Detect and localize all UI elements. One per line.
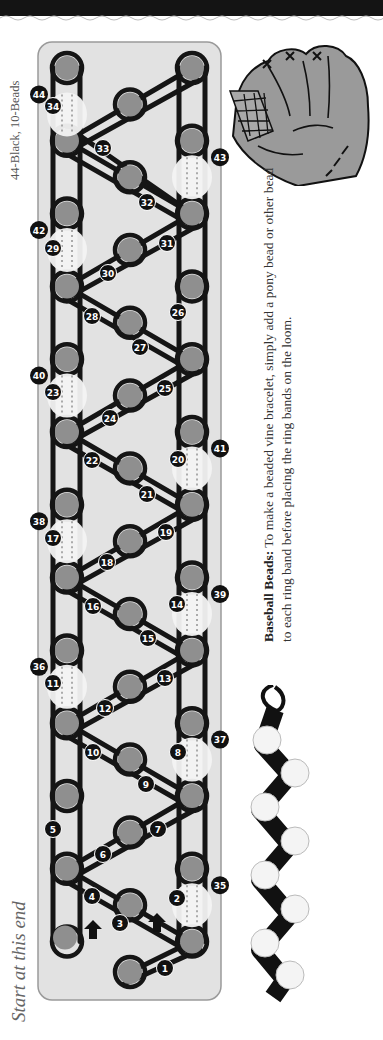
peg <box>180 129 204 153</box>
peg <box>180 857 204 881</box>
peg <box>180 274 204 298</box>
bracelet-baseball-bead <box>281 759 309 787</box>
bracelet-baseball-bead <box>276 961 304 989</box>
peg <box>55 202 79 226</box>
peg <box>118 820 142 844</box>
bracelet-baseball-bead <box>251 929 279 957</box>
band-number-label: 11 <box>47 679 60 689</box>
peg <box>55 274 79 298</box>
peg <box>55 857 79 881</box>
bead-number-label: 37 <box>214 735 227 745</box>
peg <box>55 493 79 517</box>
peg <box>118 602 142 626</box>
band-number-label: 28 <box>86 312 99 322</box>
bead-number-label: 38 <box>33 517 46 527</box>
band-number-label: 27 <box>134 343 147 353</box>
band-number-label: 23 <box>47 388 60 398</box>
band-number-label: 25 <box>159 384 172 394</box>
band-number-label: 26 <box>172 308 185 318</box>
tip-line-2: to each ring band before placing the rin… <box>278 168 296 642</box>
peg <box>180 347 204 371</box>
tip-title: Baseball Beads: <box>261 551 276 642</box>
bead-number-label: 44 <box>33 90 46 100</box>
peg <box>53 926 77 950</box>
tip-line-1-text: To make a beaded vine bracelet, simply a… <box>261 168 276 551</box>
peg <box>180 711 204 735</box>
bracelet-baseball-bead <box>281 895 309 923</box>
peg <box>55 347 79 371</box>
band-number-label: 4 <box>89 892 95 902</box>
peg <box>118 893 142 917</box>
peg <box>118 238 142 262</box>
peg <box>55 711 79 735</box>
band-number-label: 5 <box>50 825 56 835</box>
band-number-label: 29 <box>47 244 60 254</box>
peg <box>55 638 79 662</box>
band-number-label: 33 <box>97 144 110 154</box>
band-number-label: 2 <box>174 894 180 904</box>
band-number-label: 21 <box>141 490 154 500</box>
peg <box>55 420 79 444</box>
peg <box>118 748 142 772</box>
peg <box>118 92 142 116</box>
baseball-glove-icon <box>228 36 378 186</box>
bead-number-label: 36 <box>33 662 46 672</box>
band-number-label: 6 <box>100 850 106 860</box>
bracelet-baseball-bead <box>281 827 309 855</box>
bead-number-label: 41 <box>214 444 227 454</box>
bead-body <box>172 155 212 199</box>
peg <box>180 202 204 226</box>
peg <box>180 566 204 590</box>
band-number-label: 12 <box>99 704 112 714</box>
bracelet-photo <box>245 685 325 1015</box>
bead-number-label: 43 <box>214 153 227 163</box>
band-number-label: 19 <box>160 528 173 538</box>
band-number-label: 9 <box>143 780 149 790</box>
band-number-label: 31 <box>161 239 174 249</box>
peg <box>180 930 204 954</box>
baseball-beads-tip: Baseball Beads: To make a beaded vine br… <box>260 168 296 642</box>
band-number-label: 30 <box>102 269 115 279</box>
band-number-label: 24 <box>104 414 117 424</box>
peg <box>118 165 142 189</box>
peg <box>180 56 204 80</box>
peg <box>180 493 204 517</box>
peg <box>55 566 79 590</box>
peg <box>118 529 142 553</box>
bead-number-label: 39 <box>214 590 227 600</box>
band-number-label: 18 <box>101 558 114 568</box>
band-number-label: 16 <box>87 602 100 612</box>
bead-number-label: 40 <box>33 371 46 381</box>
peg <box>55 784 79 808</box>
peg <box>118 384 142 408</box>
band-number-label: 1 <box>162 964 168 974</box>
peg <box>118 311 142 335</box>
peg <box>118 960 142 984</box>
band-number-label: 10 <box>87 748 100 758</box>
band-number-label: 13 <box>159 674 172 684</box>
bead-number-label: 35 <box>214 881 227 891</box>
band-number-label: 20 <box>172 455 185 465</box>
baseball-bead <box>172 155 212 199</box>
band-number-label: 34 <box>47 102 60 112</box>
peg <box>180 638 204 662</box>
peg <box>118 456 142 480</box>
peg <box>118 675 142 699</box>
band-number-label: 3 <box>117 919 123 929</box>
bracelet-baseball-bead <box>251 861 279 889</box>
band-number-label: 7 <box>155 825 161 835</box>
band-number-label: 8 <box>175 748 181 758</box>
tip-line-1: Baseball Beads: To make a beaded vine br… <box>260 168 278 642</box>
peg <box>180 420 204 444</box>
band-number-label: 15 <box>142 634 155 644</box>
band-number-label: 17 <box>47 534 60 544</box>
peg <box>180 784 204 808</box>
bracelet-baseball-bead <box>253 726 281 754</box>
band-number-label: 14 <box>171 600 184 610</box>
bead-number-label: 42 <box>33 226 46 236</box>
band-number-label: 32 <box>141 198 154 208</box>
bracelet-baseball-bead <box>251 793 279 821</box>
peg <box>55 56 79 80</box>
band-number-label: 22 <box>86 456 99 466</box>
